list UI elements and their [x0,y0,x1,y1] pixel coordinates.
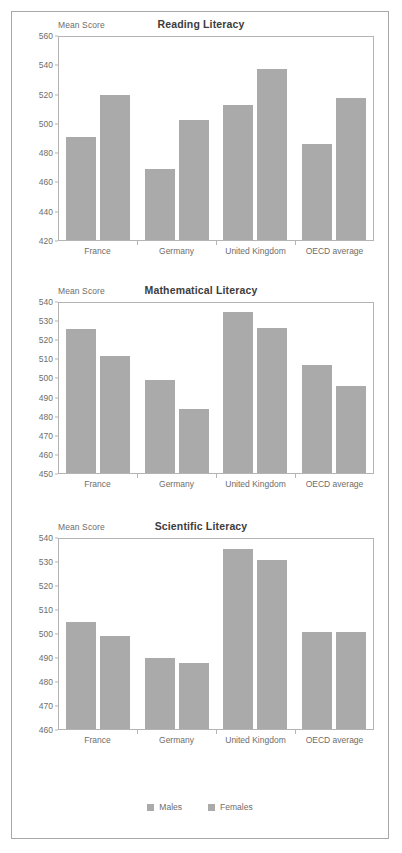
bar-males-france [66,622,96,729]
x-axis-label: OECD average [295,735,374,745]
legend-item-females: Females [208,802,253,812]
x-axis-label: OECD average [295,246,374,256]
bar-males-oecd-average [302,632,332,729]
y-axis-tick-mark [55,211,58,212]
y-axis-tick-mark [55,706,58,707]
y-axis-tick-label: 520 [39,335,53,345]
bars-layer [59,539,373,729]
chart-title: Scientific Literacy [12,520,390,532]
y-axis-tick-mark [55,435,58,436]
chart-scientific-literacy: Mean Score Scientific Literacy 460470480… [12,520,390,770]
bar-females-france [100,95,130,240]
y-axis-tick-mark [55,302,58,303]
bar-group [216,303,295,473]
bar-group [216,539,295,729]
y-axis-tick-label: 520 [39,581,53,591]
y-axis-tick-label: 500 [39,373,53,383]
bars-layer [59,303,373,473]
x-axis-separator [295,241,296,245]
bar-males-germany [145,169,175,240]
bar-group [138,303,217,473]
bar-females-france [100,356,130,473]
bar-males-france [66,329,96,473]
y-axis-tick-mark [55,153,58,154]
y-axis-tick-label: 530 [39,557,53,567]
y-axis-tick-label: 450 [39,469,53,479]
y-axis-tick-label: 500 [39,629,53,639]
plot-wrap: 420440460480500520540560 [58,36,374,241]
x-axis-separator [137,474,138,478]
bar-group [295,303,374,473]
y-axis-tick-label: 530 [39,316,53,326]
bar-females-oecd-average [336,632,366,729]
y-axis-tick-mark [55,182,58,183]
x-axis-labels: FranceGermanyUnited KingdomOECD average [58,246,374,256]
bar-group [216,37,295,240]
bar-males-germany [145,658,175,729]
x-axis-label: France [58,735,137,745]
bar-females-oecd-average [336,386,366,473]
chart-title: Reading Literacy [12,18,390,30]
x-axis-labels: FranceGermanyUnited KingdomOECD average [58,735,374,745]
x-axis-separator [137,241,138,245]
y-axis-tick-mark [55,634,58,635]
y-axis-tick-label: 510 [39,605,53,615]
legend-item-males: Males [147,802,182,812]
y-axis-tick-mark [55,397,58,398]
x-axis-label: OECD average [295,479,374,489]
y-axis-tick-label: 470 [39,431,53,441]
x-axis-label: France [58,479,137,489]
y-axis-tick-label: 540 [39,297,53,307]
y-axis-tick-mark [55,321,58,322]
bar-females-germany [179,120,209,240]
bar-group [138,37,217,240]
y-axis-tick-label: 490 [39,393,53,403]
y-axis-tick-mark [55,610,58,611]
plot-wrap: 450460470480490500510520530540 [58,302,374,474]
y-axis-tick-label: 480 [39,412,53,422]
y-axis-tick-mark [55,94,58,95]
chart-header: Mean Score Scientific Literacy [12,520,390,538]
bar-females-oecd-average [336,98,366,240]
bar-group [138,539,217,729]
chart-title: Mathematical Literacy [12,284,390,296]
y-axis-tick-mark [55,586,58,587]
legend-swatch-icon [147,804,154,811]
x-axis: FranceGermanyUnited KingdomOECD average [58,474,374,496]
legend-label: Females [220,802,253,812]
bar-males-united-kingdom [223,105,253,240]
x-axis-separator [216,241,217,245]
x-axis: FranceGermanyUnited KingdomOECD average [58,730,374,752]
y-axis-tick-mark [55,538,58,539]
bar-males-united-kingdom [223,549,253,730]
legend-swatch-icon [208,804,215,811]
chart-legend: MalesFemales [12,802,388,812]
x-axis-separator [295,474,296,478]
bar-females-united-kingdom [257,69,287,240]
y-axis-tick-mark [55,562,58,563]
y-axis-tick-label: 480 [39,148,53,158]
y-axis-tick-label: 420 [39,236,53,246]
legend-label: Males [159,802,182,812]
y-axis-tick-label: 560 [39,31,53,41]
y-axis-tick-label: 520 [39,90,53,100]
bar-females-united-kingdom [257,328,287,473]
bar-females-france [100,636,130,729]
chart-header: Mean Score Mathematical Literacy [12,284,390,302]
bars-layer [59,37,373,240]
chart-header: Mean Score Reading Literacy [12,18,390,36]
y-axis-tick-label: 500 [39,119,53,129]
bar-group [295,37,374,240]
y-axis-tick-mark [55,416,58,417]
plot-wrap: 460470480490500510520530540 [58,538,374,730]
x-axis: FranceGermanyUnited KingdomOECD average [58,241,374,263]
y-axis-tick-mark [55,658,58,659]
x-axis-labels: FranceGermanyUnited KingdomOECD average [58,479,374,489]
y-axis-tick-label: 480 [39,677,53,687]
bar-males-united-kingdom [223,312,253,473]
bar-males-oecd-average [302,365,332,473]
bar-males-oecd-average [302,144,332,240]
y-axis-tick-mark [55,359,58,360]
x-axis-separator [216,730,217,734]
bar-males-germany [145,380,175,473]
